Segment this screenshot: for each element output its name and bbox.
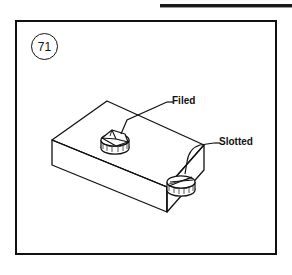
label-slotted: Slotted — [219, 137, 253, 147]
page-canvas: 71 — [0, 0, 292, 275]
figure-frame: 71 — [15, 20, 277, 255]
label-filed: Filed — [172, 96, 195, 106]
slotted-screw-head — [167, 176, 195, 196]
figure-number-badge: 71 — [31, 33, 58, 60]
page-header-rule-secondary — [160, 7, 292, 8]
figure-number-text: 71 — [38, 41, 51, 53]
page-header — [160, 0, 292, 8]
